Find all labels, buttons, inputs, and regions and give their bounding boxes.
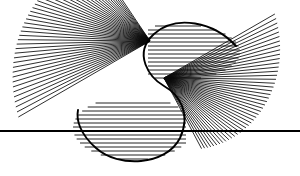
line-art-figure <box>0 0 300 176</box>
art-canvas <box>0 0 300 176</box>
